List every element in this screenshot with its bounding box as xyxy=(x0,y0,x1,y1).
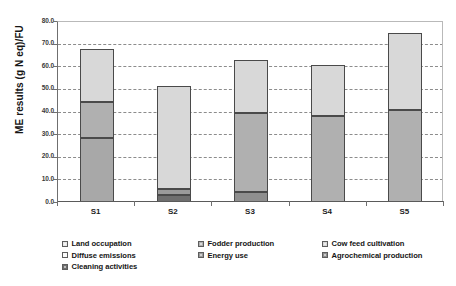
legend-item[interactable]: Cow feed cultivation xyxy=(322,239,444,248)
legend-item[interactable]: Agrochemical production xyxy=(322,251,444,260)
legend-swatch-icon xyxy=(62,252,68,258)
bar-segment xyxy=(388,110,422,202)
x-tick-mark xyxy=(443,201,444,206)
bar-segment xyxy=(311,116,345,202)
legend-swatch-icon xyxy=(198,252,204,258)
y-tick-value: 80.0 xyxy=(24,17,54,24)
legend-swatch-icon xyxy=(198,241,204,247)
x-tick-mark xyxy=(57,201,58,206)
legend-label: Diffuse emissions xyxy=(72,251,136,260)
y-tick-label: 70.0 xyxy=(18,39,54,48)
bar-s5[interactable] xyxy=(388,21,422,202)
x-tick-label-s2: S2 xyxy=(143,207,203,216)
x-tick-label-s1: S1 xyxy=(66,207,126,216)
legend-item[interactable]: Land occupation xyxy=(62,239,198,248)
legend-item[interactable]: Fodder production xyxy=(198,239,322,248)
bar-s4[interactable] xyxy=(311,21,345,202)
x-tick-mark xyxy=(366,201,367,206)
bar-chart: ME results (g N eq)/FU 80.070.060.050.04… xyxy=(0,0,456,286)
legend-label: Fodder production xyxy=(208,239,275,248)
bar-s3[interactable] xyxy=(234,21,268,202)
bar-segment xyxy=(388,33,422,109)
x-tick-label-s3: S3 xyxy=(220,207,280,216)
y-tick-value: 50.0 xyxy=(24,84,54,91)
x-tick-mark xyxy=(289,201,290,206)
plot-area xyxy=(57,21,443,202)
bar-segment xyxy=(157,189,191,195)
y-tick-label: 80.0 xyxy=(18,17,54,26)
legend-row: Land occupationFodder productionCow feed… xyxy=(62,238,444,250)
x-tick-mark xyxy=(211,201,212,206)
y-tick-label: 30.0 xyxy=(18,130,54,139)
bar-segment xyxy=(157,86,191,189)
y-tick-value: 0.0 xyxy=(24,198,54,205)
legend-swatch-icon xyxy=(62,241,68,247)
legend-swatch-icon xyxy=(62,264,68,270)
legend-label: Cow feed cultivation xyxy=(332,239,405,248)
bar-segment xyxy=(80,102,114,137)
y-tick-value: 40.0 xyxy=(24,107,54,114)
x-axis-line xyxy=(57,201,444,202)
legend-row: Cleaning activities xyxy=(62,261,444,273)
y-tick-label: 60.0 xyxy=(18,62,54,71)
y-tick-label: 20.0 xyxy=(18,152,54,161)
legend-row: Diffuse emissionsEnergy useAgrochemical … xyxy=(62,250,444,262)
legend-label: Cleaning activities xyxy=(72,262,138,271)
y-tick-value: 70.0 xyxy=(24,39,54,46)
y-tick-value: 60.0 xyxy=(24,62,54,69)
bar-segment xyxy=(311,65,345,116)
bar-segment xyxy=(80,138,114,202)
legend-label: Energy use xyxy=(208,251,248,260)
x-tick-label-s5: S5 xyxy=(374,207,434,216)
bar-segment xyxy=(234,60,268,113)
y-tick-label: 40.0 xyxy=(18,107,54,116)
bar-s2[interactable] xyxy=(157,21,191,202)
legend-label: Land occupation xyxy=(72,239,132,248)
bar-s1[interactable] xyxy=(80,21,114,202)
y-tick-label: 50.0 xyxy=(18,84,54,93)
y-tick-value: 20.0 xyxy=(24,152,54,159)
bar-segment xyxy=(234,113,268,192)
legend-item[interactable]: Cleaning activities xyxy=(62,262,198,271)
bar-segment xyxy=(80,49,114,102)
legend-item[interactable]: Diffuse emissions xyxy=(62,251,198,260)
y-tick-value: 30.0 xyxy=(24,130,54,137)
legend-item[interactable]: Energy use xyxy=(198,251,322,260)
legend-label: Agrochemical production xyxy=(332,251,423,260)
y-tick-value: 10.0 xyxy=(24,175,54,182)
chart-legend: Land occupationFodder productionCow feed… xyxy=(62,238,444,273)
x-tick-mark xyxy=(134,201,135,206)
y-tick-label: 0.0 xyxy=(18,198,54,207)
x-tick-label-s4: S4 xyxy=(297,207,357,216)
legend-swatch-icon xyxy=(322,241,328,247)
y-tick-label: 10.0 xyxy=(18,175,54,184)
legend-swatch-icon xyxy=(322,252,328,258)
cropped-caption xyxy=(6,0,446,6)
